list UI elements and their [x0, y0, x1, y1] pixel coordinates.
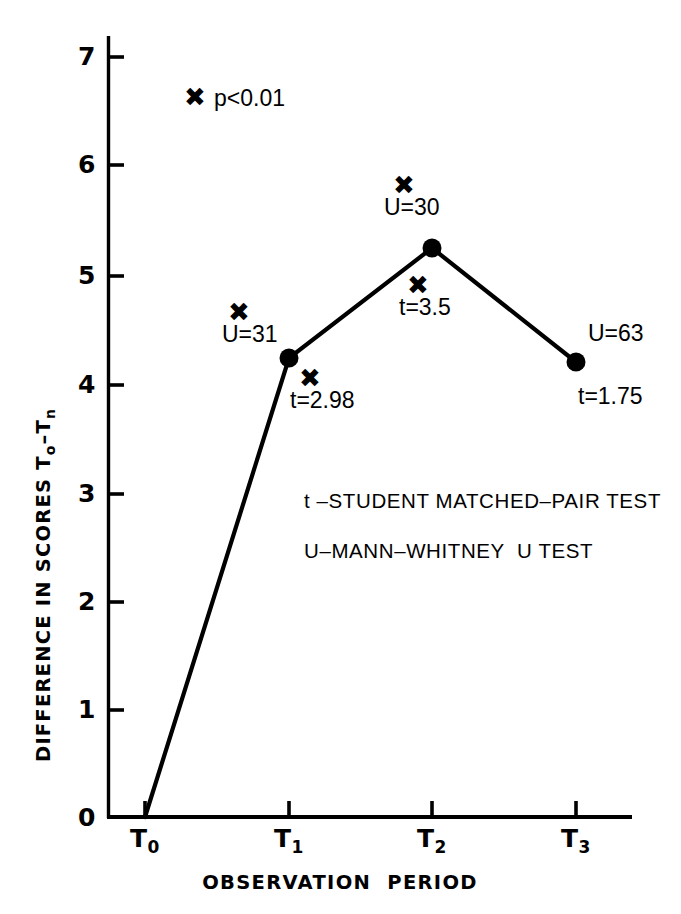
- x-tick-label-t2: T2: [409, 826, 455, 856]
- chart-figure: 7 6 5 4 3 2 1 0 T0 T1 T2 T3 DIFFERENCE I…: [0, 0, 681, 914]
- y-axis-title-sub-n: n: [42, 408, 58, 419]
- y-tick-label-6: 6: [62, 152, 96, 177]
- annotation-t35: t=3.5: [399, 296, 451, 319]
- x-tick-label-t1: T1: [266, 826, 312, 856]
- x-tick-t2-base: T: [417, 824, 435, 853]
- annotation-t175: t=1.75: [578, 385, 643, 408]
- y-tick-label-2: 2: [62, 589, 96, 614]
- data-series-line: [145, 248, 576, 817]
- star-icon-t35: ✖: [407, 278, 429, 294]
- x-tick-t1-sub: 1: [292, 837, 304, 857]
- x-tick-t0-base: T: [130, 824, 148, 853]
- plot-area: [0, 0, 681, 914]
- y-tick-label-7: 7: [62, 44, 96, 69]
- x-tick-t2-sub: 2: [435, 837, 447, 857]
- y-tick-label-3: 3: [62, 481, 96, 506]
- y-tick-label-1: 1: [62, 697, 96, 722]
- star-icon-u30: ✖: [393, 178, 415, 194]
- test-key-line-student: t –STUDENT MATCHED–PAIR TEST: [304, 491, 661, 512]
- annotation-u30: U=30: [384, 196, 440, 219]
- x-tick-label-t3: T3: [553, 826, 599, 856]
- annotation-u31: U=31: [222, 323, 278, 346]
- x-axis-ticks: [145, 801, 576, 817]
- y-axis-title-main: DIFFERENCE IN SCORES T: [32, 455, 55, 762]
- annotation-t298: t=2.98: [290, 389, 355, 412]
- y-tick-label-4: 4: [62, 372, 96, 397]
- y-tick-label-5: 5: [62, 263, 96, 288]
- x-tick-t3-base: T: [561, 824, 579, 853]
- data-point-t2: [423, 239, 442, 258]
- data-point-t3: [567, 353, 586, 372]
- y-axis-title-mid: –T: [32, 419, 55, 444]
- significance-key-label: p<0.01: [214, 87, 285, 110]
- x-axis-title: OBSERVATION PERIOD: [190, 873, 490, 893]
- test-key-line-mann-whitney: U–MANN–WHITNEY U TEST: [304, 541, 593, 562]
- data-point-t1: [280, 349, 299, 368]
- y-tick-label-0: 0: [62, 805, 96, 830]
- y-axis-title: DIFFERENCE IN SCORES To–Tn: [34, 408, 57, 762]
- y-axis-ticks: [108, 57, 124, 710]
- x-tick-t1-base: T: [274, 824, 292, 853]
- annotation-u63: U=63: [588, 322, 644, 345]
- star-icon-t298: ✖: [299, 371, 321, 387]
- x-tick-t3-sub: 3: [579, 837, 591, 857]
- y-axis-title-sub-o: o: [42, 445, 58, 456]
- x-tick-t0-sub: 0: [148, 837, 160, 857]
- significance-star-icon: ✖: [184, 90, 206, 106]
- x-tick-label-t0: T0: [122, 826, 168, 856]
- star-icon-u31: ✖: [228, 305, 250, 321]
